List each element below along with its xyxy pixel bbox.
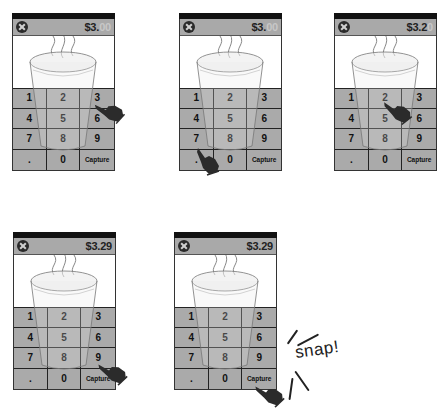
close-circle-icon[interactable] <box>17 240 29 252</box>
key-5[interactable]: 5 <box>214 109 248 130</box>
price-entered: $3. <box>84 21 99 33</box>
key-8[interactable]: 8 <box>369 129 403 150</box>
key-2[interactable]: 2 <box>48 307 82 328</box>
phone-screen-step-4: $3.29 123456789.0Capture <box>13 232 116 390</box>
numeric-keypad: 123456789.0Capture <box>13 88 114 170</box>
key-0[interactable]: 0 <box>209 369 243 390</box>
price-display: $3.20 <box>406 21 433 33</box>
close-circle-icon[interactable] <box>178 240 190 252</box>
key-6[interactable]: 6 <box>242 328 276 349</box>
key-7[interactable]: 7 <box>13 129 47 150</box>
key-7[interactable]: 7 <box>175 348 209 369</box>
price-entered: $3.29 <box>246 240 273 252</box>
key-5[interactable]: 5 <box>47 109 81 130</box>
key-capture[interactable]: Capture <box>247 150 281 171</box>
key-6[interactable]: 6 <box>80 109 114 130</box>
price-display: $3.00 <box>84 21 111 33</box>
snap-annotation: snap! <box>294 337 340 363</box>
numeric-keypad: 123456789.0Capture <box>335 88 436 170</box>
key-1[interactable]: 1 <box>14 307 48 328</box>
key-4[interactable]: 4 <box>175 328 209 349</box>
key-1[interactable]: 1 <box>175 307 209 328</box>
key-3[interactable]: 3 <box>81 307 115 328</box>
phone-screen-step-3: $3.20 123456789.0Capture <box>334 13 437 171</box>
key-8[interactable]: 8 <box>47 129 81 150</box>
phone-screen-step-2: $3.00 123456789.0Capture <box>179 13 282 171</box>
key-decimal[interactable]: . <box>14 369 48 390</box>
key-0[interactable]: 0 <box>369 150 403 171</box>
key-9[interactable]: 9 <box>247 129 281 150</box>
key-4[interactable]: 4 <box>13 109 47 130</box>
header-bar: $3.00 <box>180 19 281 36</box>
key-9[interactable]: 9 <box>402 129 436 150</box>
key-6[interactable]: 6 <box>247 109 281 130</box>
key-2[interactable]: 2 <box>47 88 81 109</box>
key-4[interactable]: 4 <box>335 109 369 130</box>
key-2[interactable]: 2 <box>214 88 248 109</box>
price-entered: $3.29 <box>85 240 112 252</box>
phone-screen-step-5: $3.29 123456789.0Capture <box>174 232 277 390</box>
key-9[interactable]: 9 <box>242 348 276 369</box>
header-bar: $3.00 <box>13 19 114 36</box>
key-0[interactable]: 0 <box>47 150 81 171</box>
key-1[interactable]: 1 <box>335 88 369 109</box>
key-7[interactable]: 7 <box>14 348 48 369</box>
key-0[interactable]: 0 <box>48 369 82 390</box>
header-bar: $3.29 <box>175 238 276 255</box>
key-capture[interactable]: Capture <box>402 150 436 171</box>
price-entered: $3.2 <box>406 21 427 33</box>
key-7[interactable]: 7 <box>335 129 369 150</box>
key-capture[interactable]: Capture <box>80 150 114 171</box>
key-8[interactable]: 8 <box>48 348 82 369</box>
close-circle-icon[interactable] <box>183 21 195 33</box>
header-bar: $3.29 <box>14 238 115 255</box>
price-placeholder-digits: 0 <box>427 21 433 33</box>
price-display: $3.29 <box>246 240 273 252</box>
key-0[interactable]: 0 <box>214 150 248 171</box>
key-3[interactable]: 3 <box>242 307 276 328</box>
key-3[interactable]: 3 <box>247 88 281 109</box>
key-9[interactable]: 9 <box>81 348 115 369</box>
key-1[interactable]: 1 <box>13 88 47 109</box>
key-9[interactable]: 9 <box>80 129 114 150</box>
close-circle-icon[interactable] <box>338 21 350 33</box>
key-3[interactable]: 3 <box>402 88 436 109</box>
key-5[interactable]: 5 <box>48 328 82 349</box>
key-decimal[interactable]: . <box>175 369 209 390</box>
header-bar: $3.20 <box>335 19 436 36</box>
numeric-keypad: 123456789.0Capture <box>14 307 115 389</box>
key-decimal[interactable]: . <box>180 150 214 171</box>
phone-screen-step-1: $3.00 123456789.0Capture <box>12 13 115 171</box>
price-placeholder-digits: 00 <box>99 21 111 33</box>
key-2[interactable]: 2 <box>209 307 243 328</box>
price-display: $3.29 <box>85 240 112 252</box>
key-8[interactable]: 8 <box>214 129 248 150</box>
key-1[interactable]: 1 <box>180 88 214 109</box>
close-circle-icon[interactable] <box>16 21 28 33</box>
key-capture[interactable]: Capture <box>242 369 276 390</box>
price-placeholder-digits: 00 <box>266 21 278 33</box>
key-6[interactable]: 6 <box>402 109 436 130</box>
key-5[interactable]: 5 <box>369 109 403 130</box>
key-8[interactable]: 8 <box>209 348 243 369</box>
key-3[interactable]: 3 <box>80 88 114 109</box>
key-decimal[interactable]: . <box>13 150 47 171</box>
key-6[interactable]: 6 <box>81 328 115 349</box>
key-5[interactable]: 5 <box>209 328 243 349</box>
snap-burst-line <box>288 378 293 400</box>
key-7[interactable]: 7 <box>180 129 214 150</box>
numeric-keypad: 123456789.0Capture <box>175 307 276 389</box>
key-4[interactable]: 4 <box>180 109 214 130</box>
snap-burst-line <box>294 371 309 392</box>
price-entered: $3. <box>251 21 266 33</box>
key-4[interactable]: 4 <box>14 328 48 349</box>
key-capture[interactable]: Capture <box>81 369 115 390</box>
key-decimal[interactable]: . <box>335 150 369 171</box>
price-display: $3.00 <box>251 21 278 33</box>
numeric-keypad: 123456789.0Capture <box>180 88 281 170</box>
key-2[interactable]: 2 <box>369 88 403 109</box>
